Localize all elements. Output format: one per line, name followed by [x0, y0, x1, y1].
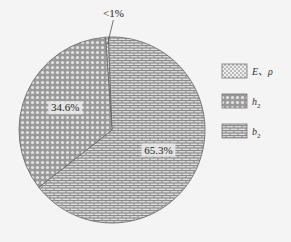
slice-label-b2: 65.3% — [144, 144, 172, 156]
legend: E、ρh2b2 — [222, 64, 273, 140]
legend-swatch-E — [222, 64, 247, 78]
slice-label-h2: 34.6% — [51, 101, 79, 113]
legend-swatch-h2 — [222, 94, 247, 108]
legend-label-h2: h2 — [252, 96, 261, 110]
legend-label-E: E、ρ — [251, 66, 273, 77]
pie-chart: <1%65.3%34.6% E、ρh2b2 — [0, 0, 291, 242]
slice-label-E: <1% — [103, 7, 124, 19]
legend-swatch-b2 — [222, 124, 247, 138]
legend-label-b2: b2 — [252, 126, 261, 140]
pie-slices — [19, 37, 205, 223]
